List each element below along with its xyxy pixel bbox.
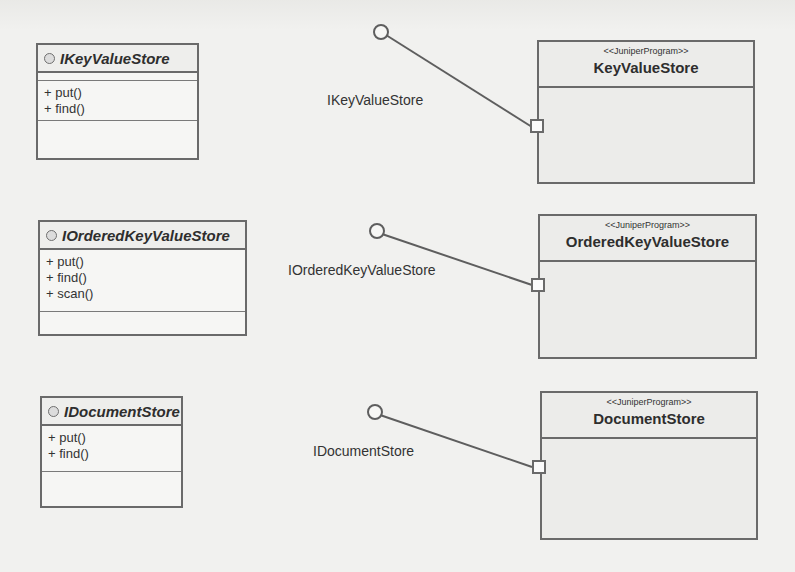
interface-circle-icon: [46, 230, 57, 241]
operation-item: + scan(): [46, 286, 239, 302]
operation-item: + put(): [44, 85, 191, 101]
interface-box-idocumentstore[interactable]: IDocumentStore + put() + find(): [40, 396, 183, 508]
port-keyvaluestore[interactable]: [530, 119, 544, 133]
lollipop-label-iorderedkeyvaluestore: IOrderedKeyValueStore: [288, 262, 436, 278]
operation-item: + put(): [48, 430, 175, 446]
operations-compartment: + put() + find(): [42, 426, 181, 472]
lollipop-label-idocumentstore: IDocumentStore: [313, 443, 414, 459]
operation-item: + find(): [44, 101, 191, 117]
operation-item: + find(): [46, 270, 239, 286]
interface-header: IKeyValueStore: [38, 45, 197, 73]
port-orderedkeyvaluestore[interactable]: [531, 278, 545, 292]
lollipop-icon-documentstore[interactable]: [368, 405, 382, 419]
component-keyvaluestore[interactable]: <<JuniperProgram>> KeyValueStore: [537, 40, 755, 184]
component-stereotype: <<JuniperProgram>>: [540, 219, 755, 231]
interface-circle-icon: [48, 406, 59, 417]
operations-compartment: + put() + find(): [38, 81, 197, 121]
extra-compartment: [38, 121, 197, 135]
component-header: <<JuniperProgram>> OrderedKeyValueStore: [540, 216, 755, 262]
interface-name: IKeyValueStore: [60, 50, 170, 67]
component-header: <<JuniperProgram>> DocumentStore: [542, 393, 756, 439]
component-name: KeyValueStore: [539, 57, 753, 79]
component-orderedkeyvaluestore[interactable]: <<JuniperProgram>> OrderedKeyValueStore: [538, 214, 757, 359]
interface-circle-icon: [44, 53, 55, 64]
interface-box-iorderedkeyvaluestore[interactable]: IOrderedKeyValueStore + put() + find() +…: [38, 220, 247, 336]
attributes-compartment: [38, 73, 197, 81]
interface-header: IDocumentStore: [42, 398, 181, 426]
lollipop-label-ikeyvaluestore: IKeyValueStore: [327, 92, 423, 108]
component-header: <<JuniperProgram>> KeyValueStore: [539, 42, 753, 88]
operation-item: + find(): [48, 446, 175, 462]
component-name: DocumentStore: [542, 408, 756, 430]
interface-box-ikeyvaluestore[interactable]: IKeyValueStore + put() + find(): [36, 43, 199, 160]
assembly-connector-documentstore: [380, 415, 532, 467]
operations-compartment: + put() + find() + scan(): [40, 250, 245, 305]
port-documentstore[interactable]: [532, 460, 546, 474]
extra-compartment: [42, 472, 181, 486]
lollipop-icon-orderedkeyvaluestore[interactable]: [370, 224, 384, 238]
assembly-connector-keyvaluestore: [386, 35, 532, 127]
interface-name: IOrderedKeyValueStore: [62, 227, 230, 244]
page-bleed-through: [0, 0, 795, 30]
extra-compartment: [40, 311, 245, 315]
interface-name: IDocumentStore: [64, 403, 180, 420]
interface-header: IOrderedKeyValueStore: [40, 222, 245, 250]
component-stereotype: <<JuniperProgram>>: [542, 396, 756, 408]
component-name: OrderedKeyValueStore: [540, 231, 755, 253]
component-stereotype: <<JuniperProgram>>: [539, 45, 753, 57]
component-documentstore[interactable]: <<JuniperProgram>> DocumentStore: [540, 391, 758, 540]
operation-item: + put(): [46, 254, 239, 270]
